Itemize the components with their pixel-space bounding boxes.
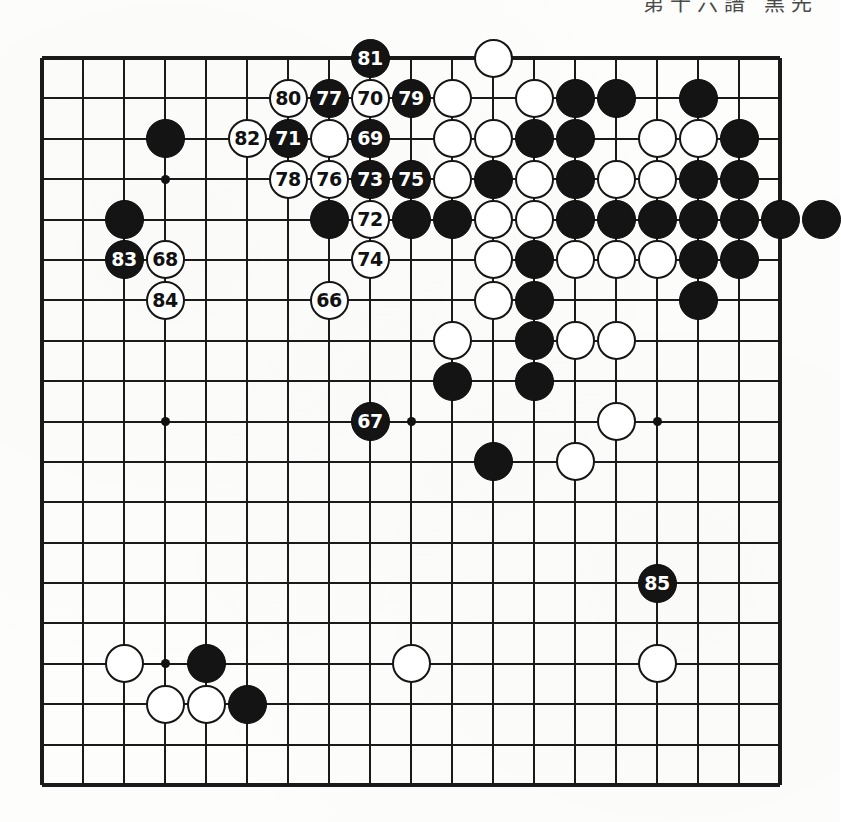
stone-white[interactable]	[638, 240, 677, 279]
stone-white[interactable]	[597, 402, 636, 441]
numbered-stone-black-81[interactable]: 81	[351, 39, 390, 78]
numbered-stone-black-79[interactable]: 79	[392, 79, 431, 118]
numbered-stone-white-76[interactable]: 76	[310, 160, 349, 199]
stone-black[interactable]	[720, 119, 759, 158]
stone-white[interactable]	[187, 685, 226, 724]
stone-move-number: 80	[275, 88, 300, 107]
stone-white[interactable]	[556, 442, 595, 481]
numbered-stone-white-70[interactable]: 70	[351, 79, 390, 118]
stone-black[interactable]	[720, 200, 759, 239]
stone-black[interactable]	[556, 200, 595, 239]
numbered-stone-white-84[interactable]: 84	[146, 281, 185, 320]
stone-white[interactable]	[392, 644, 431, 683]
stone-black[interactable]	[597, 79, 636, 118]
numbered-stone-black-73[interactable]: 73	[351, 160, 390, 199]
numbered-stone-white-78[interactable]: 78	[269, 160, 308, 199]
grid-line-vertical	[778, 58, 782, 785]
stone-black[interactable]	[515, 119, 554, 158]
stone-move-number: 71	[275, 129, 300, 148]
stone-white[interactable]	[638, 119, 677, 158]
stone-black[interactable]	[638, 200, 677, 239]
numbered-stone-black-75[interactable]: 75	[392, 160, 431, 199]
stone-move-number: 72	[357, 210, 382, 229]
stone-white[interactable]	[146, 685, 185, 724]
stone-move-number: 82	[234, 129, 259, 148]
numbered-stone-black-83[interactable]: 83	[105, 240, 144, 279]
grid-line-horizontal	[42, 783, 780, 787]
stone-black[interactable]	[474, 160, 513, 199]
stone-black[interactable]	[310, 200, 349, 239]
stone-black[interactable]	[515, 362, 554, 401]
numbered-stone-white-80[interactable]: 80	[269, 79, 308, 118]
stone-white[interactable]	[474, 119, 513, 158]
stone-black[interactable]	[515, 321, 554, 360]
stone-white[interactable]	[433, 119, 472, 158]
stone-black[interactable]	[556, 160, 595, 199]
stone-black[interactable]	[515, 240, 554, 279]
stone-white[interactable]	[474, 240, 513, 279]
stone-black[interactable]	[761, 200, 800, 239]
stone-black[interactable]	[392, 200, 431, 239]
stone-white[interactable]	[597, 321, 636, 360]
star-point	[407, 417, 416, 426]
stone-black[interactable]	[802, 200, 841, 239]
stone-white[interactable]	[597, 160, 636, 199]
diagram-caption: 第十六譜 黒先	[0, 0, 840, 16]
numbered-stone-black-69[interactable]: 69	[351, 119, 390, 158]
stone-white[interactable]	[474, 281, 513, 320]
star-point	[161, 175, 170, 184]
stone-white[interactable]	[515, 79, 554, 118]
stone-move-number: 73	[357, 169, 382, 188]
stone-white[interactable]	[679, 119, 718, 158]
stone-black[interactable]	[515, 281, 554, 320]
stone-move-number: 69	[357, 129, 382, 148]
stone-white[interactable]	[433, 79, 472, 118]
numbered-stone-black-67[interactable]: 67	[351, 402, 390, 441]
stone-white[interactable]	[556, 240, 595, 279]
numbered-stone-black-85[interactable]: 85	[638, 564, 677, 603]
stone-white[interactable]	[515, 160, 554, 199]
stone-black[interactable]	[556, 119, 595, 158]
stone-white[interactable]	[638, 644, 677, 683]
stone-black[interactable]	[679, 281, 718, 320]
numbered-stone-white-72[interactable]: 72	[351, 200, 390, 239]
stone-white[interactable]	[310, 119, 349, 158]
stone-move-number: 75	[398, 169, 423, 188]
stone-black[interactable]	[433, 200, 472, 239]
stone-black[interactable]	[556, 79, 595, 118]
stone-white[interactable]	[433, 160, 472, 199]
stone-white[interactable]	[556, 321, 595, 360]
stone-black[interactable]	[679, 200, 718, 239]
stone-white[interactable]	[597, 240, 636, 279]
stone-black[interactable]	[228, 685, 267, 724]
stone-white[interactable]	[433, 321, 472, 360]
numbered-stone-white-68[interactable]: 68	[146, 240, 185, 279]
stone-white[interactable]	[638, 160, 677, 199]
stone-black[interactable]	[679, 240, 718, 279]
stone-white[interactable]	[474, 39, 513, 78]
stone-move-number: 76	[316, 169, 341, 188]
stone-white[interactable]	[515, 200, 554, 239]
stone-move-number: 66	[316, 290, 341, 309]
go-board[interactable]: 6667686970717273747576777879808182838485	[42, 58, 780, 785]
stone-white[interactable]	[474, 200, 513, 239]
stone-move-number: 84	[152, 290, 177, 309]
numbered-stone-black-77[interactable]: 77	[310, 79, 349, 118]
stone-black[interactable]	[597, 200, 636, 239]
stone-black[interactable]	[720, 160, 759, 199]
stone-black[interactable]	[720, 240, 759, 279]
numbered-stone-white-74[interactable]: 74	[351, 240, 390, 279]
stone-black[interactable]	[474, 442, 513, 481]
numbered-stone-black-71[interactable]: 71	[269, 119, 308, 158]
stone-white[interactable]	[105, 644, 144, 683]
stone-black[interactable]	[679, 160, 718, 199]
stone-black[interactable]	[146, 119, 185, 158]
grid-line-horizontal	[42, 501, 780, 503]
stone-black[interactable]	[433, 362, 472, 401]
stone-black[interactable]	[679, 79, 718, 118]
numbered-stone-white-66[interactable]: 66	[310, 281, 349, 320]
numbered-stone-white-82[interactable]: 82	[228, 119, 267, 158]
stone-black[interactable]	[105, 200, 144, 239]
stone-black[interactable]	[187, 644, 226, 683]
